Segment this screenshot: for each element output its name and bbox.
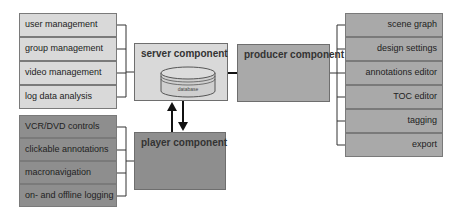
server-component: server component database xyxy=(134,43,228,101)
player-feature-macronavigation: macronavigation xyxy=(19,161,117,184)
player-component: player component xyxy=(134,132,226,190)
database-label: database xyxy=(160,86,216,92)
server-feature-video-management: video management xyxy=(19,61,117,85)
server-feature-user-management: user management xyxy=(19,13,117,37)
player-feature-vcr-dvd-controls: VCR/DVD controls xyxy=(19,115,117,138)
server-component-title: server component xyxy=(141,48,228,59)
arrow-server-to-player xyxy=(178,101,188,131)
arrow-player-to-server xyxy=(167,102,177,132)
player-feature-clickable-annotations: clickable annotations xyxy=(19,138,117,161)
producer-feature-annotations-editor: annotations editor xyxy=(345,61,443,85)
database-icon xyxy=(160,66,216,98)
player-component-title: player component xyxy=(141,137,227,148)
producer-component-title: producer component xyxy=(244,49,344,60)
producer-feature-scene-graph: scene graph xyxy=(345,13,443,37)
producer-feature-toc-editor: TOC editor xyxy=(345,85,443,109)
producer-feature-export: export xyxy=(345,133,443,157)
producer-feature-design-settings: design settings xyxy=(345,37,443,61)
server-feature-group-management: group management xyxy=(19,37,117,61)
player-feature-logging: on- and offline logging xyxy=(19,184,117,207)
producer-component: producer component xyxy=(237,44,330,102)
server-feature-log-data-analysis: log data analysis xyxy=(19,85,117,109)
producer-feature-tagging: tagging xyxy=(345,109,443,133)
